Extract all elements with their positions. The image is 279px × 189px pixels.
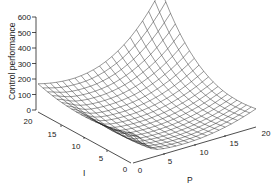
svg-text:5: 5 (168, 157, 173, 166)
svg-text:5: 5 (99, 154, 104, 163)
svg-text:10: 10 (72, 142, 81, 151)
svg-text:0: 0 (27, 106, 32, 115)
svg-text:20: 20 (262, 129, 271, 138)
svg-text:0: 0 (123, 165, 128, 174)
p-axis-label: P (187, 175, 193, 185)
i-axis-label: I (83, 168, 85, 178)
z-axis-label: Control performance (7, 22, 17, 100)
svg-text:500: 500 (18, 29, 32, 38)
wireframe-surface (38, 0, 256, 149)
svg-text:100: 100 (18, 91, 32, 100)
z-axis (32, 17, 36, 110)
svg-text:300: 300 (18, 60, 32, 69)
svg-text:15: 15 (48, 130, 57, 139)
svg-text:200: 200 (18, 75, 32, 84)
svg-text:400: 400 (18, 44, 32, 53)
surface-plot: 600 500 400 300 200 100 0 Control perfor… (0, 0, 279, 189)
p-tick-labels: 0 5 10 15 20 (138, 129, 271, 175)
svg-text:10: 10 (200, 148, 209, 157)
z-tick-labels: 600 500 400 300 200 100 0 (18, 13, 32, 115)
svg-text:15: 15 (230, 139, 239, 148)
svg-text:20: 20 (24, 117, 33, 126)
svg-text:0: 0 (138, 166, 143, 175)
svg-text:600: 600 (18, 13, 32, 22)
